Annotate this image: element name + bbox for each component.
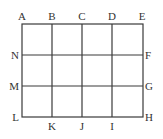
label-D: D bbox=[108, 10, 116, 22]
label-I: I bbox=[110, 120, 114, 132]
label-B: B bbox=[48, 10, 55, 22]
label-C: C bbox=[78, 10, 85, 22]
grid-diagram: A B C D E F G H I J K L M N bbox=[0, 0, 163, 139]
label-H: H bbox=[145, 111, 153, 123]
label-E: E bbox=[139, 10, 146, 22]
label-G: G bbox=[145, 80, 153, 92]
label-M: M bbox=[9, 80, 19, 92]
label-F: F bbox=[145, 49, 151, 61]
label-J: J bbox=[80, 120, 85, 132]
label-K: K bbox=[48, 120, 56, 132]
label-L: L bbox=[12, 111, 19, 123]
label-N: N bbox=[11, 49, 19, 61]
label-A: A bbox=[18, 10, 26, 22]
